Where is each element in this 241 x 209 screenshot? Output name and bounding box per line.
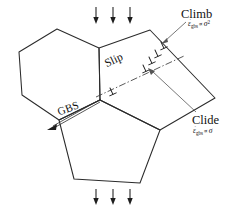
glide-rate-dot: ˙ bbox=[194, 125, 196, 131]
bottom-load-arrows bbox=[93, 189, 132, 205]
glide-leader bbox=[148, 68, 196, 112]
climb-leader bbox=[161, 22, 186, 44]
top-load-arrow bbox=[110, 7, 115, 24]
climb-rate-dot: ˙ bbox=[189, 18, 191, 24]
gbs-arrowhead bbox=[47, 124, 57, 130]
top-load-arrow bbox=[127, 7, 132, 24]
climb-rate-equation: ˙εgbs∝σ2 bbox=[188, 20, 210, 29]
diagram-canvas bbox=[0, 0, 241, 209]
climb-exponent: 2 bbox=[208, 19, 211, 25]
climb-subscript: gbs bbox=[191, 23, 198, 29]
bottom-load-arrow bbox=[110, 189, 115, 205]
bottom-grain-outline bbox=[59, 100, 160, 183]
glide-rate-equation: ˙εgbs∝σ bbox=[193, 127, 213, 136]
deformation-mechanism-diagram: Slip GBS Climb ˙εgbs∝σ2 Clide ˙εgbs∝σ bbox=[0, 0, 241, 209]
top-load-arrows bbox=[93, 7, 132, 24]
top-load-arrow bbox=[93, 7, 98, 24]
bottom-load-arrow bbox=[127, 189, 132, 205]
glide-subscript: gbs bbox=[196, 130, 203, 136]
bottom-load-arrow bbox=[93, 189, 98, 205]
glide-stress-symbol: σ bbox=[209, 126, 213, 135]
